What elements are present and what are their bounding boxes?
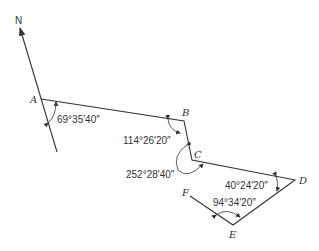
angle-label-e: 94°34′20″ (213, 197, 256, 208)
angle-label-a: 69°35′40″ (57, 114, 100, 125)
angle-label-d: 40°24′20″ (225, 180, 268, 191)
point-label-c: C (194, 149, 202, 160)
north-arrow: N (15, 15, 57, 152)
angle-label-b: 114°26′20″ (123, 135, 171, 146)
point-label-b: B (181, 107, 189, 118)
point-label-a: A (29, 94, 37, 105)
angle-label-c: 252°28′40″ (126, 169, 175, 180)
point-label-f: F (181, 187, 190, 198)
north-label: N (15, 15, 22, 26)
point-label-d: D (298, 175, 307, 186)
angle-labels: 69°35′40″ 114°26′20″ 252°28′40″ 40°24′20… (57, 114, 268, 208)
traverse-diagram: N A B C D E F 69°35′40″ 114°26′20″ 252°2… (0, 0, 319, 251)
point-label-e: E (228, 229, 237, 240)
